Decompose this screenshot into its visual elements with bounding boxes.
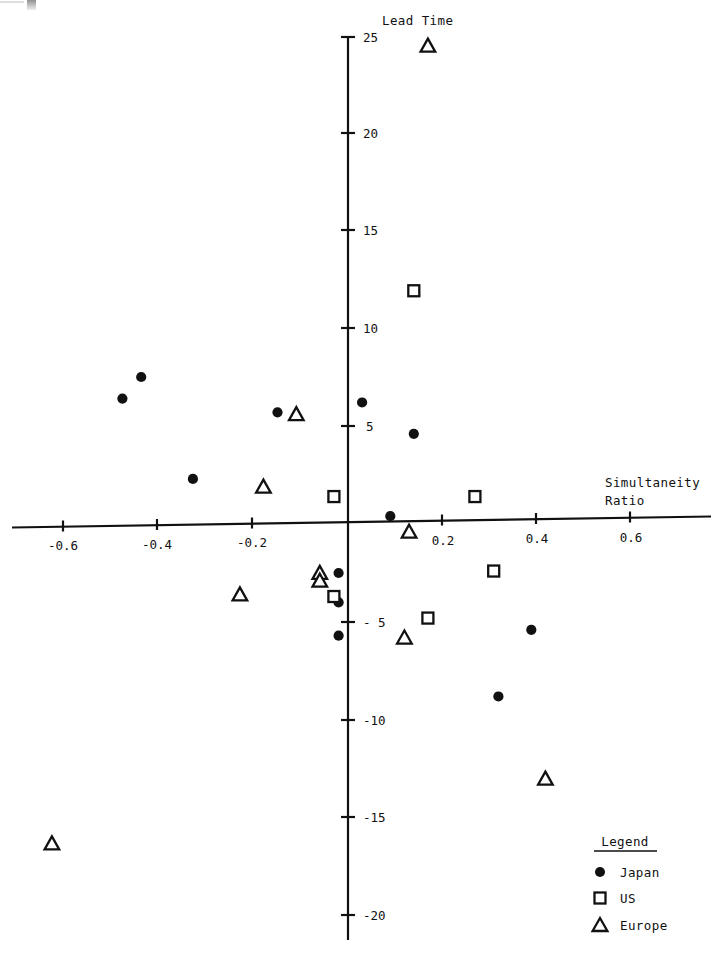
chart-canvas: -0.6 -0.4 -0.2 0.2 0.4 0.6 25 20 15 10 5… xyxy=(0,0,723,957)
y-tick-label: 25 xyxy=(363,30,378,45)
series-markers-us xyxy=(328,285,499,623)
series-markers-europe xyxy=(45,39,553,850)
y-tick-label: 10 xyxy=(363,321,378,336)
x-axis-tick-labels: -0.6 -0.4 -0.2 0.2 0.4 0.6 xyxy=(48,530,642,553)
y-axis-title: Lead Time xyxy=(382,13,453,28)
y-tick-label: 5 xyxy=(366,419,374,434)
data-point-europe xyxy=(233,587,248,600)
legend-label-europe: Europe xyxy=(620,918,668,933)
scatter-plot: -0.6 -0.4 -0.2 0.2 0.4 0.6 25 20 15 10 5… xyxy=(0,0,723,957)
x-tick-label: 0.4 xyxy=(526,531,549,546)
y-tick-label: 20 xyxy=(363,126,378,141)
legend-label-japan: Japan xyxy=(620,865,660,880)
x-tick-label: 0.6 xyxy=(620,530,643,545)
y-tick-label: 15 xyxy=(363,223,378,238)
data-point-japan xyxy=(357,397,367,407)
x-tick-label: 0.2 xyxy=(432,533,455,548)
data-point-us xyxy=(488,566,499,577)
legend-label-us: US xyxy=(620,891,636,906)
data-point-japan xyxy=(272,407,282,417)
x-axis-title-line2: Ratio xyxy=(605,493,645,508)
x-axis-title-line1: Simultaneity xyxy=(605,475,700,490)
y-axis-tick-labels: 25 20 15 10 5 - 5 -10 -15 -20 xyxy=(363,30,386,923)
data-point-europe xyxy=(538,772,553,785)
data-point-japan xyxy=(117,393,127,403)
data-point-europe xyxy=(421,39,436,52)
data-point-japan xyxy=(385,511,395,521)
data-point-europe xyxy=(289,407,304,420)
series-markers-japan xyxy=(117,372,536,702)
data-point-europe xyxy=(256,480,271,493)
y-tick-label: -15 xyxy=(363,810,386,825)
legend-marker-japan xyxy=(595,867,605,877)
data-point-japan xyxy=(136,372,146,382)
legend-marker-europe xyxy=(593,918,608,931)
data-point-japan xyxy=(334,568,344,578)
data-point-japan xyxy=(188,474,198,484)
y-tick-label: -10 xyxy=(363,713,386,728)
data-point-us xyxy=(328,491,339,502)
data-point-japan xyxy=(493,691,503,701)
legend-marker-us xyxy=(595,893,606,904)
data-point-us xyxy=(469,491,480,502)
data-point-japan xyxy=(526,625,536,635)
x-tick-label: -0.4 xyxy=(142,537,172,552)
data-point-japan xyxy=(409,429,419,439)
y-tick-label: -20 xyxy=(363,908,386,923)
data-point-us xyxy=(422,613,433,624)
y-tick-label: - 5 xyxy=(363,615,386,630)
data-point-us xyxy=(408,285,419,296)
x-tick-label: -0.6 xyxy=(48,538,78,553)
x-axis-line xyxy=(12,517,711,528)
x-tick-label: -0.2 xyxy=(237,535,267,550)
legend-title: Legend xyxy=(601,834,649,849)
data-point-europe xyxy=(402,525,417,538)
legend: Legend Japan US Europe xyxy=(593,834,668,933)
data-point-europe xyxy=(45,836,60,849)
data-point-japan xyxy=(334,631,344,641)
data-point-europe xyxy=(397,631,412,644)
data-point-us xyxy=(328,591,339,602)
